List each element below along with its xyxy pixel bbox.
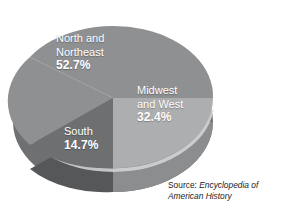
source-title-line1: Encyclopedia of [199, 180, 258, 190]
source-note: Source: Encyclopedia of American History [168, 180, 280, 201]
source-prefix: Source: [168, 180, 199, 190]
pie-top-face [8, 26, 213, 168]
source-title-line2: American History [168, 191, 232, 201]
pie-chart-area: North and Northeast 52.7% Midwest and We… [0, 0, 230, 200]
pie-chart-figure: North and Northeast 52.7% Midwest and We… [0, 0, 282, 210]
pie-chart-svg [0, 0, 230, 200]
